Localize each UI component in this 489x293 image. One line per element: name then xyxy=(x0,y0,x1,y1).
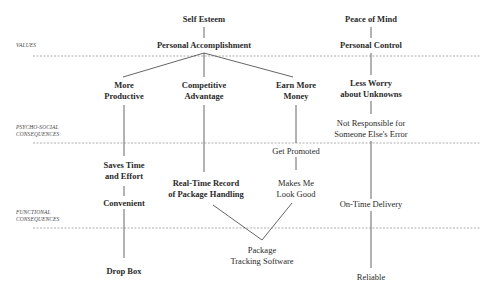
edge-real-time-to-package xyxy=(213,205,262,240)
node-convenient: Convenient xyxy=(103,198,145,209)
node-package-tracking: Package Tracking Software xyxy=(230,245,293,267)
node-not-responsible-line1: Not Responsible for xyxy=(334,118,407,129)
node-get-promoted: Get Promoted xyxy=(272,146,319,157)
edge-to-earn-more xyxy=(204,53,293,77)
means-end-ladder-diagram: VALUES PSYCHO-SOCIAL CONSEQUENCES FUNCTI… xyxy=(0,0,489,293)
node-peace-of-mind: Peace of Mind xyxy=(345,14,397,25)
node-package-tracking-line1: Package xyxy=(230,245,293,256)
node-more-productive: More Productive xyxy=(104,80,144,102)
node-saves-time-line1: Saves Time xyxy=(103,160,144,171)
node-real-time-record-line1: Real-Time Record xyxy=(168,178,244,189)
node-saves-time-line2: and Effort xyxy=(103,171,144,182)
node-earn-more-money-line2: Money xyxy=(276,91,316,102)
node-makes-me-look-good-line1: Makes Me xyxy=(277,178,316,189)
node-package-tracking-line2: Tracking Software xyxy=(230,256,293,267)
node-drop-box: Drop Box xyxy=(106,266,141,277)
node-not-responsible: Not Responsible for Someone Else's Error xyxy=(334,118,407,140)
level-label-functional: FUNCTIONAL CONSEQUENCES xyxy=(16,209,59,222)
node-saves-time: Saves Time and Effort xyxy=(103,160,144,182)
edge-makes-me-to-package xyxy=(262,203,292,240)
node-competitive-advantage-line1: Competitive xyxy=(182,80,226,91)
node-on-time-delivery: On-Time Delivery xyxy=(340,199,403,210)
node-less-worry: Less Worry about Unknowns xyxy=(340,78,402,100)
node-not-responsible-line2: Someone Else's Error xyxy=(334,129,407,140)
node-real-time-record-line2: of Package Handling xyxy=(168,189,244,200)
node-reliable: Reliable xyxy=(357,272,385,283)
level-label-values: VALUES xyxy=(16,42,36,49)
node-self-esteem: Self Esteem xyxy=(183,14,225,25)
node-more-productive-line1: More xyxy=(104,80,144,91)
node-real-time-record: Real-Time Record of Package Handling xyxy=(168,178,244,200)
node-competitive-advantage-line2: Advantage xyxy=(182,91,226,102)
node-competitive-advantage: Competitive Advantage xyxy=(182,80,226,102)
node-earn-more-money-line1: Earn More xyxy=(276,80,316,91)
node-earn-more-money: Earn More Money xyxy=(276,80,316,102)
level-label-values-text: VALUES xyxy=(16,42,36,48)
level-label-psycho-social: PSYCHO-SOCIAL CONSEQUENCES xyxy=(16,124,59,137)
node-personal-accomplishment: Personal Accomplishment xyxy=(157,40,251,51)
node-less-worry-line1: Less Worry xyxy=(340,78,402,89)
level-label-psycho-social-line1: PSYCHO-SOCIAL xyxy=(16,124,59,131)
node-makes-me-look-good: Makes Me Look Good xyxy=(277,178,316,200)
level-label-psycho-social-line2: CONSEQUENCES xyxy=(16,131,59,138)
node-personal-control: Personal Control xyxy=(340,40,402,51)
node-more-productive-line2: Productive xyxy=(104,91,144,102)
node-makes-me-look-good-line2: Look Good xyxy=(277,189,316,200)
level-label-functional-line2: CONSEQUENCES xyxy=(16,216,59,223)
node-less-worry-line2: about Unknowns xyxy=(340,89,402,100)
edge-to-more-productive xyxy=(123,53,204,77)
